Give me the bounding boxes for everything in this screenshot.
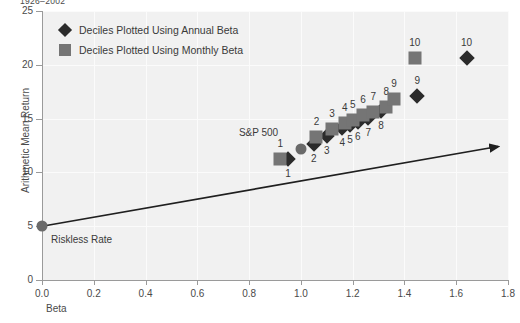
y-axis-tick-label: 5 (0, 221, 33, 231)
y-axis-tick-label: 0 (0, 275, 33, 285)
x-axis-tick (94, 280, 95, 285)
grid-line-horizontal (42, 119, 508, 120)
square-marker-icon (58, 43, 72, 57)
chart-legend: Deciles Plotted Using Annual Beta Decile… (58, 22, 243, 62)
data-point-label: 10 (447, 37, 487, 48)
y-axis-tick (36, 11, 42, 12)
x-axis-tick (249, 280, 250, 285)
data-point-label: 1 (260, 138, 300, 149)
x-axis-tick-label: 0.0 (22, 288, 62, 299)
x-axis-tick (197, 280, 198, 285)
data-point-label: 10 (395, 37, 435, 48)
annotation-riskless-rate: Riskless Rate (51, 234, 112, 245)
x-axis-tick-label: 0.6 (177, 288, 217, 299)
legend-label: Deciles Plotted Using Annual Beta (79, 24, 238, 36)
y-axis-tick (36, 65, 42, 66)
data-point-square-9 (388, 93, 401, 106)
y-axis (42, 11, 43, 280)
x-axis-tick-label: 0.2 (74, 288, 114, 299)
grid-line-horizontal (42, 226, 508, 227)
x-axis-tick-label: 1.8 (488, 288, 520, 299)
x-axis (42, 280, 508, 281)
x-axis-tick (404, 280, 405, 285)
x-axis-tick (42, 280, 43, 285)
x-axis-tick-label: 1.4 (384, 288, 424, 299)
grid-line-horizontal (42, 11, 508, 12)
x-axis-label: Beta (46, 303, 67, 314)
data-point-square-2 (310, 130, 323, 143)
x-axis-tick (146, 280, 147, 285)
x-axis-tick (353, 280, 354, 285)
grid-line-horizontal (42, 65, 508, 66)
x-axis-tick-label: 1.0 (281, 288, 321, 299)
x-axis-tick-label: 0.4 (126, 288, 166, 299)
diamond-marker-icon (58, 23, 72, 37)
data-point-label: 9 (374, 78, 414, 89)
annotation-s-p-500: S&P 500 (239, 127, 278, 138)
y-axis-tick (36, 119, 42, 120)
data-point-label: 1 (268, 168, 308, 179)
x-axis-tick (508, 280, 509, 285)
x-axis-tick (456, 280, 457, 285)
legend-label: Deciles Plotted Using Monthly Beta (79, 44, 243, 56)
data-point-square-1 (274, 153, 287, 166)
legend-item-monthly-beta: Deciles Plotted Using Monthly Beta (58, 42, 243, 58)
data-point-s-p-500 (295, 143, 306, 154)
y-axis-label: Arithmetic Mean Return (20, 61, 31, 221)
x-axis-tick-label: 1.6 (436, 288, 476, 299)
data-point-square-7 (367, 106, 380, 119)
y-axis-tick-label: 25 (0, 6, 33, 16)
data-point-riskless-rate (37, 221, 48, 232)
x-axis-tick-label: 1.2 (333, 288, 373, 299)
data-point-square-10 (408, 52, 421, 65)
grid-line-vertical (404, 11, 405, 280)
x-axis-tick (301, 280, 302, 285)
data-point-square-3 (325, 123, 338, 136)
grid-line-vertical (508, 11, 509, 280)
grid-line-vertical (456, 11, 457, 280)
grid-line-vertical (249, 11, 250, 280)
y-axis-tick (36, 172, 42, 173)
chart-top-caption: 1926–2002 (20, 0, 140, 6)
legend-item-annual-beta: Deciles Plotted Using Annual Beta (58, 22, 243, 38)
x-axis-tick-label: 0.8 (229, 288, 269, 299)
